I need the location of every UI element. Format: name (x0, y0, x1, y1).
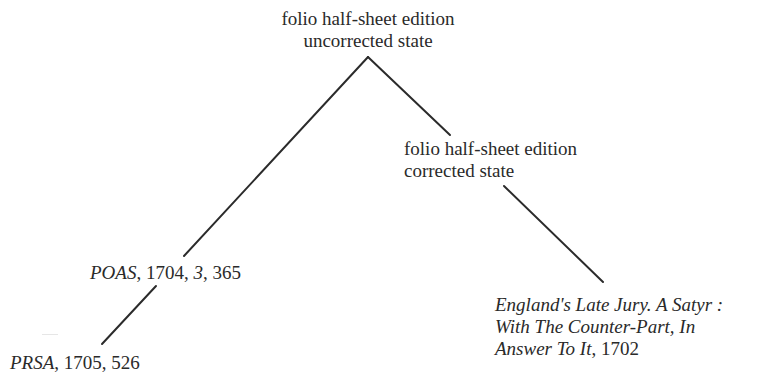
poas-volume: 3 (193, 262, 203, 283)
england-line3: Answer To It, 1702 (495, 338, 723, 360)
prsa-title: PRSA (10, 352, 54, 373)
node-england: England's Late Jury. A Satyr : With The … (495, 294, 723, 360)
prsa-details: , 1705, 526 (54, 352, 140, 373)
root-line1: folio half-sheet edition (248, 8, 488, 30)
edge-root-to-corrected (368, 57, 450, 135)
england-line3-year: , 1702 (591, 338, 639, 359)
corrected-line2: corrected state (404, 160, 577, 182)
poas-year: , 1704, (136, 262, 193, 283)
edge-corrected-to-england (504, 186, 603, 282)
england-line2: With The Counter-Part, In (495, 316, 723, 338)
england-line1: England's Late Jury. A Satyr : (495, 294, 723, 316)
poas-page: , 365 (203, 262, 241, 283)
node-corrected: folio half-sheet edition corrected state (404, 138, 577, 182)
node-root: folio half-sheet edition uncorrected sta… (248, 8, 488, 52)
edge-poas-to-prsa (102, 286, 156, 344)
england-line3-title: Answer To It (495, 338, 591, 359)
poas-title: POAS (90, 262, 136, 283)
corrected-line1: folio half-sheet edition (404, 138, 577, 160)
root-line2: uncorrected state (248, 30, 488, 52)
node-prsa: PRSA, 1705, 526 (10, 352, 140, 374)
node-poas: POAS, 1704, 3, 365 (90, 262, 241, 284)
edge-root-to-poas (184, 57, 368, 256)
print-smudge (42, 334, 58, 335)
